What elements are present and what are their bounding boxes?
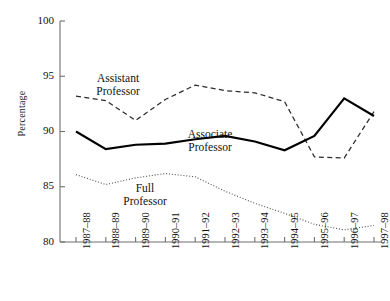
x-axis-tick-label: 1995–96	[319, 212, 330, 249]
x-axis-tick-label: 1987–88	[81, 212, 92, 249]
y-axis-tick-label: 80	[24, 235, 54, 247]
y-axis-tick-label: 100	[24, 14, 54, 26]
y-axis-tick-label: 90	[24, 124, 54, 136]
series-label-assistant-professor: Assistant Professor	[82, 72, 154, 98]
x-axis-tick-label: 1993–94	[259, 212, 270, 249]
x-axis-tick-label: 1997–98	[379, 212, 390, 249]
y-axis-tick-label: 85	[24, 179, 54, 191]
x-axis-tick-label: 1989–90	[140, 212, 151, 249]
x-axis-tick-label: 1996–97	[349, 212, 360, 249]
series-label-associate-professor: Associate Professor	[174, 128, 246, 154]
y-axis-tick-label: 95	[24, 69, 54, 81]
chart-series-group	[76, 85, 374, 230]
y-axis-title: Percentage	[16, 74, 27, 154]
x-axis-tick-label: 1991–92	[200, 212, 211, 249]
x-axis-tick-label: 1990–91	[170, 212, 181, 249]
series-label-full-professor: Full Professor	[109, 182, 181, 208]
x-axis-tick-label: 1994–95	[289, 212, 300, 249]
x-axis-tick-label: 1988–89	[110, 212, 121, 249]
x-axis-tick-label: 1992–93	[230, 212, 241, 249]
